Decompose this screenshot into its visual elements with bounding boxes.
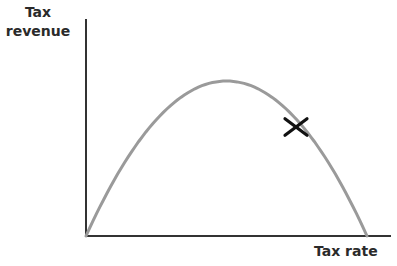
laffer-curve bbox=[86, 81, 367, 236]
x-axis-label: Tax rate bbox=[314, 243, 378, 259]
chart-plot-area bbox=[0, 0, 397, 266]
